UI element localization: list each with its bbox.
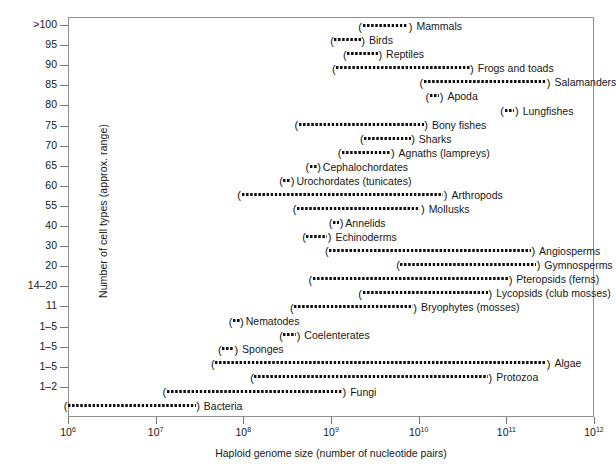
y-tick-mark <box>60 186 68 187</box>
x-tick-label: 1011 <box>497 426 516 438</box>
y-tick-label: >100 <box>0 18 57 30</box>
y-tick-mark <box>60 166 68 167</box>
range-open-paren: ( <box>279 175 283 187</box>
table-row: ()Salamanders <box>420 74 616 88</box>
y-tick-label: 1–5 <box>0 360 57 372</box>
y-tick-mark <box>60 105 68 106</box>
table-row: ()Reptiles <box>343 46 424 60</box>
range-close-paren: ) <box>421 203 425 215</box>
range-dots <box>242 192 444 196</box>
range-dots <box>310 164 317 168</box>
y-tick-label: 75 <box>0 119 57 131</box>
y-tick-label: 70 <box>0 139 57 151</box>
y-tick-mark <box>60 266 68 267</box>
range-close-paren: ) <box>537 260 541 272</box>
x-tick-label: 1012 <box>584 426 603 438</box>
range-open-paren: ( <box>309 274 313 286</box>
range-open-paren: ( <box>279 330 283 342</box>
y-tick-label: 14–20 <box>0 279 57 291</box>
range-dots <box>283 333 296 337</box>
y-tick-label: 80 <box>0 98 57 110</box>
range-dots <box>363 24 409 28</box>
y-axis-title: Number of cell types (approx. range) <box>97 11 109 411</box>
range-dots <box>505 108 515 112</box>
range-open-paren: ( <box>250 372 254 384</box>
x-tick-label: 107 <box>148 426 164 438</box>
y-tick-mark <box>60 25 68 26</box>
row-label: Algae <box>554 356 581 370</box>
y-tick-label: 90 <box>0 58 57 70</box>
range-close-paren: ) <box>424 119 428 131</box>
range-open-paren: ( <box>64 400 68 412</box>
range-open-paren: ( <box>237 189 241 201</box>
range-open-paren: ( <box>290 302 294 314</box>
table-row: ()Angiosperms <box>325 243 600 257</box>
range-close-paren: ) <box>291 175 295 187</box>
row-label: Fungi <box>350 385 376 399</box>
range-close-paren: ) <box>340 218 344 230</box>
y-tick-mark <box>60 146 68 147</box>
table-row: ()Bryophytes (mosses) <box>290 299 520 313</box>
y-tick-mark <box>60 347 68 348</box>
range-dots <box>329 249 531 253</box>
range-close-paren: ) <box>489 288 493 300</box>
row-label: Bryophytes (mosses) <box>421 300 520 314</box>
range-dots <box>363 291 489 295</box>
range-open-paren: ( <box>360 133 364 145</box>
range-dots <box>424 80 547 84</box>
range-close-paren: ) <box>317 161 321 173</box>
range-open-paren: ( <box>162 386 166 398</box>
range-close-paren: ) <box>361 35 365 47</box>
range-open-paren: ( <box>420 77 424 89</box>
range-dots <box>336 66 470 70</box>
y-tick-label: 40 <box>0 219 57 231</box>
table-row: ()Frogs and toads <box>332 60 554 74</box>
range-dots <box>294 305 413 309</box>
range-bar: () <box>229 314 244 329</box>
range-close-paren: ) <box>531 246 535 258</box>
range-bar: () <box>64 398 200 413</box>
y-tick-mark <box>60 45 68 46</box>
x-tick-label: 109 <box>323 426 339 438</box>
y-tick-mark <box>60 206 68 207</box>
range-bar: () <box>500 103 518 118</box>
table-row: ()Coelenterates <box>279 327 370 341</box>
y-tick-label: 30 <box>0 239 57 251</box>
range-close-paren: ) <box>547 77 551 89</box>
table-row: ()Gymnosperms <box>396 257 612 271</box>
x-tick-label: 1010 <box>409 426 428 438</box>
table-row: ()Urochordates (tunicates) <box>279 173 411 187</box>
range-close-paren: ) <box>391 147 395 159</box>
x-tick-mark <box>243 417 244 424</box>
table-row: ()Pteropsids (ferns) <box>309 271 600 285</box>
range-dots <box>297 206 420 210</box>
range-open-paren: ( <box>396 260 400 272</box>
y-tick-mark <box>60 387 68 388</box>
range-open-paren: ( <box>332 63 336 75</box>
y-tick-label: 65 <box>0 159 57 171</box>
row-label: Salamanders <box>554 75 616 89</box>
table-row: ()Apoda <box>425 88 477 102</box>
table-row: ()Echinoderms <box>302 229 396 243</box>
y-tick-label: 55 <box>0 199 57 211</box>
table-row: ()Mollusks <box>293 201 470 215</box>
x-tick-mark <box>506 417 507 424</box>
y-tick-mark <box>60 65 68 66</box>
range-close-paren: ) <box>444 189 448 201</box>
range-open-paren: ( <box>338 147 342 159</box>
range-bar: () <box>425 89 443 104</box>
range-dots <box>333 221 339 225</box>
range-open-paren: ( <box>295 119 299 131</box>
table-row: ()Algae <box>211 355 581 369</box>
range-open-paren: ( <box>358 288 362 300</box>
range-open-paren: ( <box>500 105 504 117</box>
table-row: ()Arthropods <box>237 187 502 201</box>
range-bar: () <box>290 300 417 315</box>
x-tick-mark <box>331 417 332 424</box>
range-close-paren: ) <box>234 344 238 356</box>
y-tick-label: 60 <box>0 179 57 191</box>
table-row: ()Birds <box>330 32 393 46</box>
x-axis-title: Haploid genome size (number of nucleotid… <box>68 447 594 459</box>
range-close-paren: ) <box>411 133 415 145</box>
